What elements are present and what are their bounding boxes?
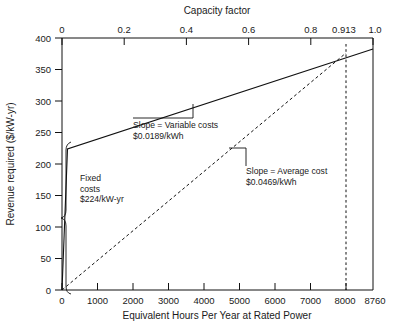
svg-text:0.8: 0.8 (304, 24, 317, 35)
svg-text:1.0: 1.0 (368, 24, 381, 35)
top-axis-title: Capacity factor (184, 5, 251, 16)
svg-text:costs: costs (80, 184, 100, 194)
svg-text:4000: 4000 (193, 295, 214, 306)
svg-text:50: 50 (40, 253, 51, 264)
svg-text:300: 300 (35, 96, 51, 107)
svg-text:0: 0 (59, 295, 64, 306)
svg-text:100: 100 (35, 222, 51, 233)
svg-text:400: 400 (35, 33, 51, 44)
svg-text:0: 0 (59, 24, 64, 35)
svg-text:0.4: 0.4 (180, 24, 193, 35)
top-tick-labels: 0 0.2 0.4 0.6 0.8 0.913 1.0 (59, 24, 381, 35)
svg-text:2000: 2000 (122, 295, 143, 306)
svg-text:0.6: 0.6 (242, 24, 255, 35)
svg-text:Slope = Variable costs: Slope = Variable costs (133, 120, 218, 130)
y-axis-title: Revenue required ($/kW-yr) (5, 102, 16, 225)
plot-area-background (62, 38, 373, 290)
svg-text:1000: 1000 (87, 295, 108, 306)
svg-text:200: 200 (35, 159, 51, 170)
svg-text:Fixed: Fixed (80, 173, 101, 183)
svg-text:5000: 5000 (229, 295, 250, 306)
revenue-required-chart: 0 1000 2000 3000 4000 5000 6000 7000 800… (0, 0, 398, 326)
svg-text:0.913: 0.913 (332, 24, 356, 35)
svg-text:$224/kW-yr: $224/kW-yr (80, 194, 124, 204)
svg-text:0: 0 (46, 285, 51, 296)
svg-text:8000: 8000 (334, 295, 355, 306)
chart-canvas: 0 1000 2000 3000 4000 5000 6000 7000 800… (0, 0, 398, 326)
svg-text:6000: 6000 (264, 295, 285, 306)
svg-text:150: 150 (35, 190, 51, 201)
bottom-tick-labels: 0 1000 2000 3000 4000 5000 6000 7000 800… (59, 295, 385, 306)
svg-text:7000: 7000 (300, 295, 321, 306)
svg-text:8760: 8760 (364, 295, 385, 306)
svg-text:$0.0469/kWh: $0.0469/kWh (246, 177, 297, 187)
left-tick-labels: 0 50 100 150 200 250 300 350 400 (35, 33, 51, 296)
svg-text:Slope = Average cost: Slope = Average cost (246, 166, 328, 176)
svg-text:0.2: 0.2 (118, 24, 131, 35)
svg-text:350: 350 (35, 64, 51, 75)
x-axis-title: Equivalent Hours Per Year at Rated Power (123, 310, 313, 321)
left-axis-ticks (55, 38, 62, 290)
svg-text:$0.0189/kWh: $0.0189/kWh (133, 131, 184, 141)
svg-text:250: 250 (35, 127, 51, 138)
svg-text:3000: 3000 (158, 295, 179, 306)
